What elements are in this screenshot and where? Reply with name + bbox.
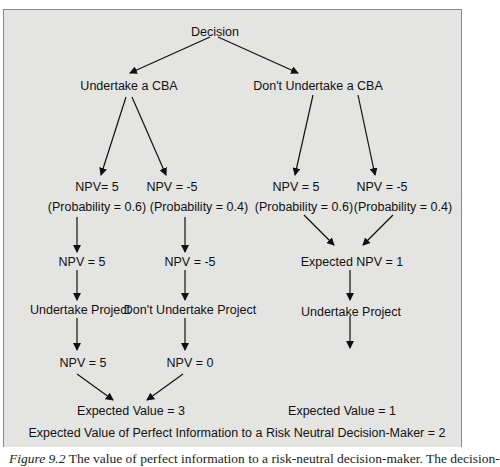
arrow-nocba-npv5 (295, 95, 313, 175)
arrow-prob06-expected (304, 215, 334, 245)
arrow-root-right (218, 37, 298, 73)
arrow-npv5-ev (77, 374, 113, 400)
node-left-npv5: NPV= 5 (75, 180, 118, 194)
node-left-expected-value: Expected Value = 3 (77, 404, 185, 418)
node-right-prob06: (Probability = 0.6) (255, 200, 353, 214)
caption-label: Figure 9.2 (9, 451, 66, 466)
node-left-undertake-project: Undertake Project (30, 303, 130, 317)
node-right-undertake-project: Undertake Project (301, 305, 401, 319)
arrow-nocba-npvm5 (358, 95, 375, 175)
node-left-result-npv0: NPV = 0 (167, 356, 214, 370)
arrow-npv0-ev (147, 374, 183, 400)
node-left-dont-undertake-project: Don't Undertake Project (124, 303, 256, 317)
arrow-root-left (130, 37, 210, 73)
caption-text: The value of perfect information to a ri… (66, 451, 500, 466)
node-left-prob06: (Probability = 0.6) (48, 200, 146, 214)
figure-caption: Figure 9.2 The value of perfect informat… (9, 451, 500, 467)
node-left-npv5-2: NPV = 5 (59, 255, 106, 269)
node-right-expected-npv: Expected NPV = 1 (301, 255, 404, 269)
node-right-expected-value: Expected Value = 1 (288, 404, 396, 418)
node-left-npvm5-2: NPV = -5 (164, 255, 215, 269)
node-left-result-npv5: NPV = 5 (60, 356, 107, 370)
arrow-cba-npvm5 (132, 97, 166, 175)
arrow-prob04-expected (363, 215, 393, 245)
node-undertake-cba: Undertake a CBA (80, 79, 177, 93)
node-right-prob04: (Probability = 0.4) (354, 200, 452, 214)
node-right-npv5: NPV = 5 (273, 180, 320, 194)
node-left-npvm5: NPV = -5 (146, 180, 197, 194)
node-left-prob04: (Probability = 0.4) (150, 200, 248, 214)
arrow-cba-npv5 (101, 97, 126, 175)
node-dont-undertake-cba: Don't Undertake a CBA (253, 79, 383, 93)
summary-evpi: Expected Value of Perfect Information to… (29, 426, 446, 440)
node-right-npvm5: NPV = -5 (356, 180, 407, 194)
node-decision: Decision (191, 25, 239, 39)
